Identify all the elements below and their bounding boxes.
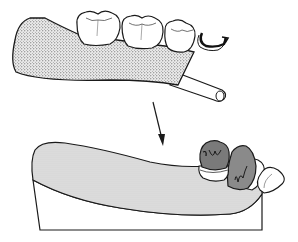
molar-1 [77, 11, 120, 45]
abutment-crown-2 [228, 146, 257, 190]
molar-2 [122, 15, 163, 48]
molar-teeth [77, 11, 195, 52]
abutment-crown-1 [199, 141, 229, 181]
transfer-arrow [153, 102, 165, 146]
clasp [198, 33, 228, 51]
cast-bottom [32, 141, 284, 230]
molar-3 [165, 20, 195, 52]
dental-diagram [0, 0, 298, 242]
denture-base-top [13, 11, 228, 101]
